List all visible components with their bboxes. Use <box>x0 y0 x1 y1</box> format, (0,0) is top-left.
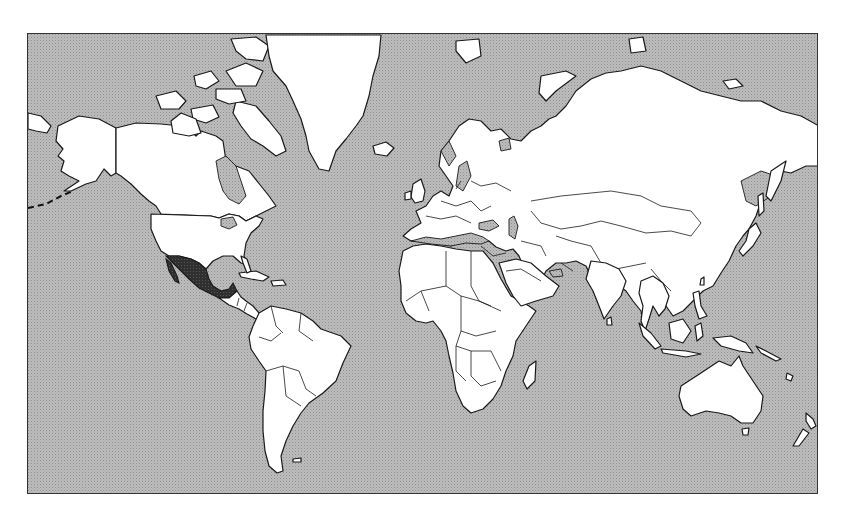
land-hispaniola <box>271 280 286 286</box>
land-tasmania <box>742 428 749 435</box>
land-sakhalin <box>758 193 764 216</box>
world-map <box>27 33 818 494</box>
land-severnaya-zemlya <box>629 37 646 53</box>
world-map-svg <box>28 34 818 494</box>
land-sri-lanka <box>607 317 612 325</box>
land-ireland <box>405 191 411 200</box>
land-falklands <box>293 458 301 462</box>
